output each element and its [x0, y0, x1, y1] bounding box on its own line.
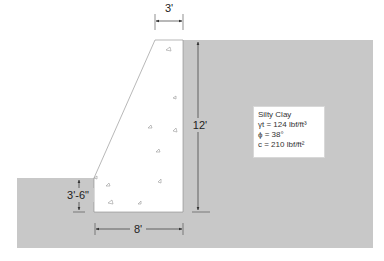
soil-friction-angle: ϕ = 38°: [258, 130, 320, 140]
base-width-label: 8': [134, 223, 142, 235]
soil-unit-weight: γt = 124 lbf/ft³: [258, 120, 320, 130]
soil-properties-box: Silty Clay γt = 124 lbf/ft³ ϕ = 38° c = …: [253, 106, 325, 158]
embedment-label: 3'-6": [67, 189, 89, 201]
top-width-label: 3': [165, 2, 173, 14]
height-label: 12': [193, 119, 207, 131]
soil-name: Silty Clay: [258, 110, 320, 120]
retaining-wall-diagram: 3' 12' 3'-6" 8': [0, 0, 384, 261]
soil-cohesion: c = 210 lbf/ft²: [258, 140, 320, 150]
